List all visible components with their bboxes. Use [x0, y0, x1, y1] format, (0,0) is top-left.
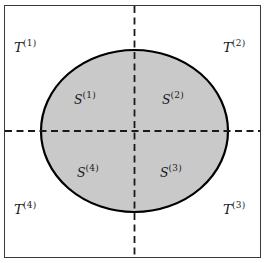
label-T1: T(1) — [14, 39, 36, 55]
label-T3-superscript: (3) — [232, 200, 245, 210]
label-T2-base: T — [223, 39, 232, 55]
label-S3-superscript: (3) — [169, 163, 182, 173]
figure-canvas: T(1) T(2) T(3) T(4) S(1) S(2) S(3) S(4) — [0, 0, 266, 263]
label-S4-superscript: (4) — [86, 163, 99, 173]
label-S3: S(3) — [160, 164, 182, 180]
label-S1-base: S — [74, 92, 83, 107]
label-S2: S(2) — [162, 91, 184, 107]
label-S2-superscript: (2) — [171, 90, 184, 100]
label-S1-superscript: (1) — [83, 90, 96, 100]
label-S1: S(1) — [74, 91, 96, 107]
label-T2: T(2) — [223, 39, 245, 55]
label-S4-base: S — [77, 165, 86, 180]
label-S2-base: S — [162, 92, 171, 107]
label-T4: T(4) — [14, 201, 36, 217]
label-T4-superscript: (4) — [23, 200, 36, 210]
label-T3: T(3) — [223, 201, 245, 217]
label-T1-superscript: (1) — [23, 38, 36, 48]
label-T4-base: T — [14, 201, 23, 217]
label-T3-base: T — [223, 201, 232, 217]
label-T1-base: T — [14, 39, 23, 55]
label-S4: S(4) — [77, 164, 99, 180]
label-T2-superscript: (2) — [232, 38, 245, 48]
label-S3-base: S — [160, 165, 169, 180]
